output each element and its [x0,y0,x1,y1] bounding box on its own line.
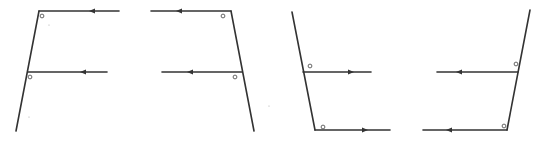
speck-dot [48,24,49,25]
diagram-canvas [0,0,536,142]
transversal-line [292,12,315,130]
angle-marker-icon [40,14,44,18]
arrow-left-icon [456,69,462,74]
arrow-right-icon [362,127,368,132]
parallel-lines-diagram [0,0,536,142]
speck-dot [268,105,269,106]
angle-marker-icon [308,64,312,68]
figure-1 [16,8,119,131]
angle-marker-icon [233,75,237,79]
arrow-left-icon [89,8,95,13]
arrow-right-icon [348,69,354,74]
angle-marker-icon [502,124,506,128]
transversal-line [16,11,39,131]
transversal-line [507,10,530,130]
angle-marker-icon [221,14,225,18]
figure-3 [292,12,390,133]
angle-marker-icon [321,125,325,129]
arrow-left-icon [187,69,193,74]
speck-dot [28,116,29,117]
angle-marker-icon [514,62,518,66]
arrow-left-icon [446,127,452,132]
figure-2 [151,8,254,131]
arrow-left-icon [80,69,86,74]
arrow-left-icon [176,8,182,13]
figure-4 [423,10,530,133]
angle-marker-icon [28,75,32,79]
transversal-line [231,11,254,131]
